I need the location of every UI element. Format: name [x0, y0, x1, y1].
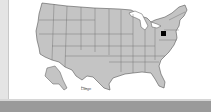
location-marker[interactable] — [161, 31, 166, 36]
scale-label: Large — [81, 86, 91, 91]
us-map[interactable] — [9, 0, 211, 99]
map-panel: Large — [8, 0, 211, 99]
alaska-shape — [45, 66, 67, 90]
bottom-bar — [0, 99, 211, 112]
